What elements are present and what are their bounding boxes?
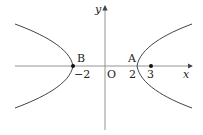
y-axis-label: y [94, 3, 102, 16]
x-axis-label: x [183, 68, 190, 81]
tick-2: 2 [129, 68, 136, 81]
origin-label: O [107, 68, 116, 81]
tick-3: 3 [147, 68, 154, 81]
label-a: A [127, 52, 137, 65]
tick-neg2: −2 [74, 68, 90, 81]
label-b: B [77, 52, 85, 65]
hyperbola-diagram: B A −2 O 2 3 x y [0, 0, 203, 135]
